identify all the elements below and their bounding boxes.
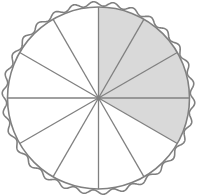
pie-diagram: [0, 0, 199, 196]
pie-center: [96, 96, 100, 100]
